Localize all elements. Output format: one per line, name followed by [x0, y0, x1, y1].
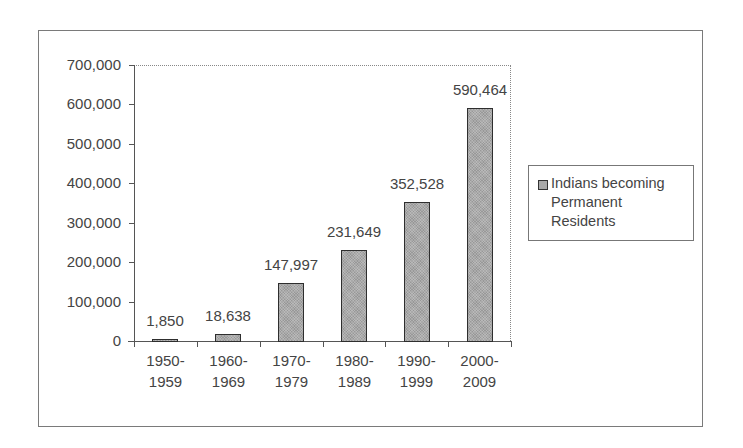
y-axis-line	[134, 65, 135, 342]
y-tick-label: 600,000	[67, 96, 121, 112]
x-tick-label: 1990-1999	[385, 350, 448, 392]
y-tick-label: 100,000	[67, 294, 121, 310]
bar-2000-2009	[467, 108, 493, 342]
bar-1990-1999	[404, 202, 430, 342]
y-tick-label: 200,000	[67, 254, 121, 270]
legend-label: Indians becoming Permanent Residents	[551, 174, 691, 231]
data-label: 590,464	[435, 82, 525, 98]
bar-1950-1959	[152, 339, 178, 342]
x-tick-label: 1960-1969	[197, 350, 260, 392]
x-tick-mark	[323, 341, 324, 347]
y-tick-label: 0	[113, 333, 121, 349]
y-tick-label: 500,000	[67, 136, 121, 152]
data-label: 147,997	[246, 257, 336, 273]
x-tick-label: 1970-1979	[260, 350, 323, 392]
y-tick-label: 400,000	[67, 175, 121, 191]
x-tick-label: 1980-1989	[323, 350, 386, 392]
x-tick-label: 2000-2009	[448, 350, 511, 392]
y-tick-label: 700,000	[67, 57, 121, 73]
y-tick-label: 300,000	[67, 215, 121, 231]
x-tick-mark	[448, 341, 449, 347]
x-tick-label: 1950-1959	[134, 350, 197, 392]
x-tick-mark	[134, 341, 135, 347]
bar-1960-1969	[215, 334, 241, 342]
legend: Indians becoming Permanent Residents	[528, 165, 694, 241]
x-tick-mark	[260, 341, 261, 347]
plot-area	[134, 65, 511, 341]
data-label: 18,638	[183, 308, 273, 324]
bar-1980-1989	[341, 250, 367, 342]
legend-swatch-icon	[538, 180, 548, 190]
data-label: 231,649	[309, 224, 399, 240]
x-tick-mark	[511, 341, 512, 347]
data-label: 352,528	[372, 176, 462, 192]
x-tick-mark	[385, 341, 386, 347]
x-tick-mark	[197, 341, 198, 347]
bar-1970-1979	[278, 283, 304, 342]
x-axis-line	[128, 341, 512, 342]
